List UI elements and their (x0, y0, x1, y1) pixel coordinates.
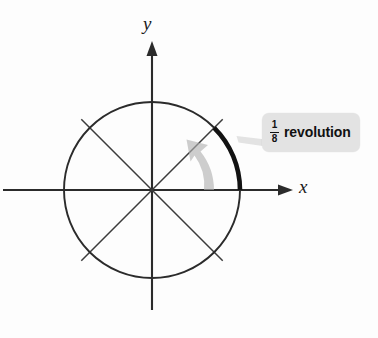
rotation-arrow (187, 140, 215, 191)
x-axis-arrowhead (278, 185, 293, 196)
fraction-numerator: 1 (271, 120, 279, 131)
callout-label: revolution (284, 124, 351, 140)
x-axis-label: x (299, 177, 307, 196)
fraction-one-eighth: 1 8 (270, 120, 279, 145)
y-axis-label: y (143, 14, 151, 33)
y-axis-arrowhead (147, 41, 158, 56)
highlighted-arc (214, 128, 240, 190)
unit-circle-diagram (0, 0, 378, 338)
revolution-callout: 1 8 revolution (262, 113, 360, 152)
unit-circle-figure: y x 1 8 revolution (0, 0, 378, 338)
fraction-denominator: 8 (271, 134, 279, 145)
